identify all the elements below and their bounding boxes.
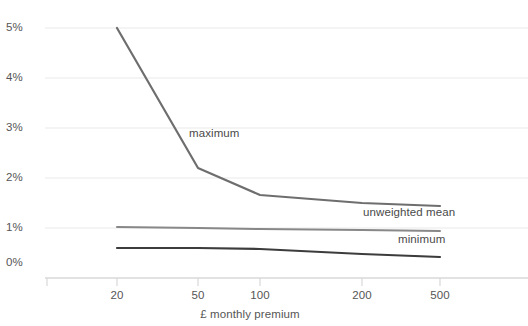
series-label-minimum: minimum (398, 233, 445, 245)
x-tick-label-20: 20 (111, 289, 124, 301)
y-tick-label-4-percent: 4% (6, 71, 23, 83)
series-line-maximum (117, 28, 440, 206)
y-tick-label-2-percent: 2% (6, 171, 23, 183)
plot-area (0, 0, 528, 326)
series-line-minimum (117, 248, 440, 257)
x-axis-title: £ monthly premium (200, 308, 299, 320)
y-tick-label-0-percent: 0% (6, 256, 23, 268)
y-tick-label-1-percent: 1% (6, 221, 23, 233)
x-tick-label-500: 500 (430, 289, 450, 301)
x-tick-label-200: 200 (352, 289, 372, 301)
x-axis (45, 278, 528, 286)
x-tick-label-100: 100 (250, 289, 270, 301)
x-tick-label-50: 50 (192, 289, 205, 301)
y-tick-label-3-percent: 3% (6, 121, 23, 133)
series-label-unweighted-mean: unweighted mean (363, 206, 455, 218)
y-tick-label-5-percent: 5% (6, 21, 23, 33)
series-label-maximum: maximum (189, 127, 240, 139)
line-chart: 5% 4% 3% 2% 1% 0% 20 50 100 200 500 £ mo… (0, 0, 528, 326)
